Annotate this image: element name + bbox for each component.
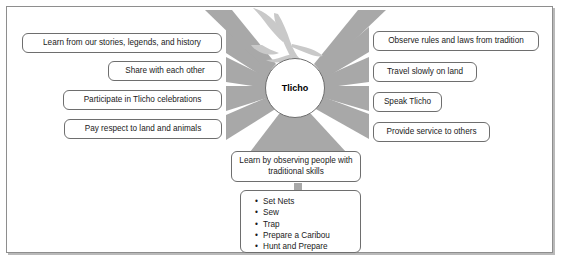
skills-list: Set Nets Sew Trap Prepare a Caribou Hunt…: [241, 196, 360, 252]
branch-box-provide-service[interactable]: Provide service to others: [373, 122, 490, 142]
branch-box-participate-celebrations[interactable]: Participate in Tlicho celebrations: [63, 90, 222, 110]
skills-list-box[interactable]: Set Nets Sew Trap Prepare a Caribou Hunt…: [240, 190, 361, 253]
list-item: Prepare a Caribou: [263, 230, 360, 241]
branch-label: Travel slowly on land: [387, 67, 463, 77]
diagram-canvas: Tlicho Learn from our stories, legends, …: [0, 0, 561, 268]
branch-box-learn-by-observing[interactable]: Learn by observing people with tradition…: [231, 151, 361, 182]
center-node-tlicho[interactable]: Tlicho: [265, 58, 325, 118]
ray-bottom: [250, 114, 346, 152]
branch-box-observe-rules[interactable]: Observe rules and laws from tradition: [373, 31, 539, 51]
center-node-label: Tlicho: [282, 83, 309, 93]
branch-label: Speak Tlicho: [384, 97, 431, 107]
branch-label: Learn by observing people with tradition…: [237, 156, 355, 177]
list-item: Set Nets: [263, 196, 360, 207]
branch-box-learn-from-stories[interactable]: Learn from our stories, legends, and his…: [22, 33, 222, 53]
branch-label: Participate in Tlicho celebrations: [84, 95, 202, 105]
branch-box-share-with-each-other[interactable]: Share with each other: [108, 61, 222, 81]
branch-label: Share with each other: [125, 66, 205, 76]
branch-label: Provide service to others: [386, 127, 476, 137]
list-item: Sew: [263, 207, 360, 218]
branch-label: Learn from our stories, legends, and his…: [43, 38, 201, 48]
branch-label: Observe rules and laws from tradition: [388, 36, 524, 46]
branch-box-travel-slowly[interactable]: Travel slowly on land: [373, 62, 477, 82]
branch-label: Pay respect to land and animals: [85, 124, 202, 134]
branch-box-pay-respect[interactable]: Pay respect to land and animals: [64, 119, 222, 139]
list-item: Hunt and Prepare: [263, 241, 360, 252]
branch-box-speak-tlicho[interactable]: Speak Tlicho: [373, 92, 442, 112]
list-item: Trap: [263, 219, 360, 230]
